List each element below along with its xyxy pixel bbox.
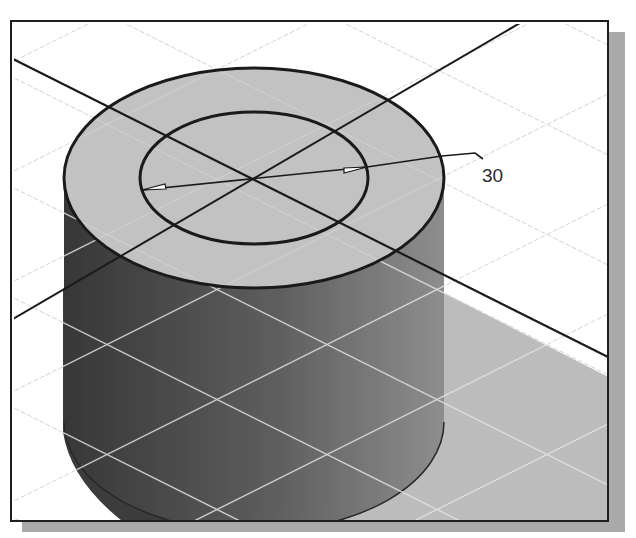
3d-scene: 30 — [10, 20, 609, 522]
cad-viewport[interactable]: 30 — [10, 20, 609, 522]
dimension-value[interactable]: 30 — [482, 165, 503, 186]
